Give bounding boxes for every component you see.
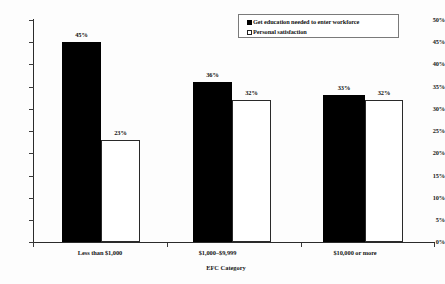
legend-label-series1: Get education needed to enter workforce [253, 19, 359, 25]
chart-screenshot: 50% 45% 40% 35% 30% 25% 20% 15% 10% 5% 0… [0, 0, 445, 284]
x-tick-2 [301, 243, 302, 247]
x-category-label-2: $1,000–$9,999 [165, 250, 270, 256]
plot-area [33, 20, 435, 242]
bar-group2-series2[interactable] [232, 100, 271, 242]
bar-group3-series1[interactable] [323, 95, 365, 242]
bar-group3-series2[interactable] [365, 100, 403, 242]
bar-label-group1-series2: 23% [101, 130, 140, 136]
bar-group1-series2[interactable] [101, 140, 140, 242]
bar-label-group3-series2: 32% [365, 90, 403, 96]
legend-label-series2: Personal satisfaction [253, 29, 307, 35]
bar-label-group2-series2: 32% [232, 90, 271, 96]
bar-group2-series1[interactable] [193, 82, 232, 242]
x-category-label-1: Less than $1,000 [40, 250, 160, 256]
bar-label-group2-series1: 36% [193, 72, 232, 78]
x-axis-title: EFC Category [186, 264, 266, 271]
x-axis-line [33, 242, 435, 243]
x-tick-end [434, 243, 435, 247]
x-tick-1 [167, 243, 168, 247]
legend-item-series2[interactable]: Personal satisfaction [247, 28, 398, 37]
bar-group1-series1[interactable] [62, 42, 101, 242]
bar-label-group3-series1: 33% [323, 85, 365, 91]
legend-swatch-hollow-square-icon [247, 30, 252, 35]
x-tick-start [33, 243, 34, 247]
chart-legend: Get education needed to enter workforce … [238, 14, 399, 38]
legend-swatch-filled-square-icon [247, 20, 252, 25]
x-category-label-3: $10,000 or more [300, 250, 410, 256]
bar-label-group1-series1: 45% [62, 32, 101, 38]
legend-item-series1[interactable]: Get education needed to enter workforce [247, 18, 398, 27]
